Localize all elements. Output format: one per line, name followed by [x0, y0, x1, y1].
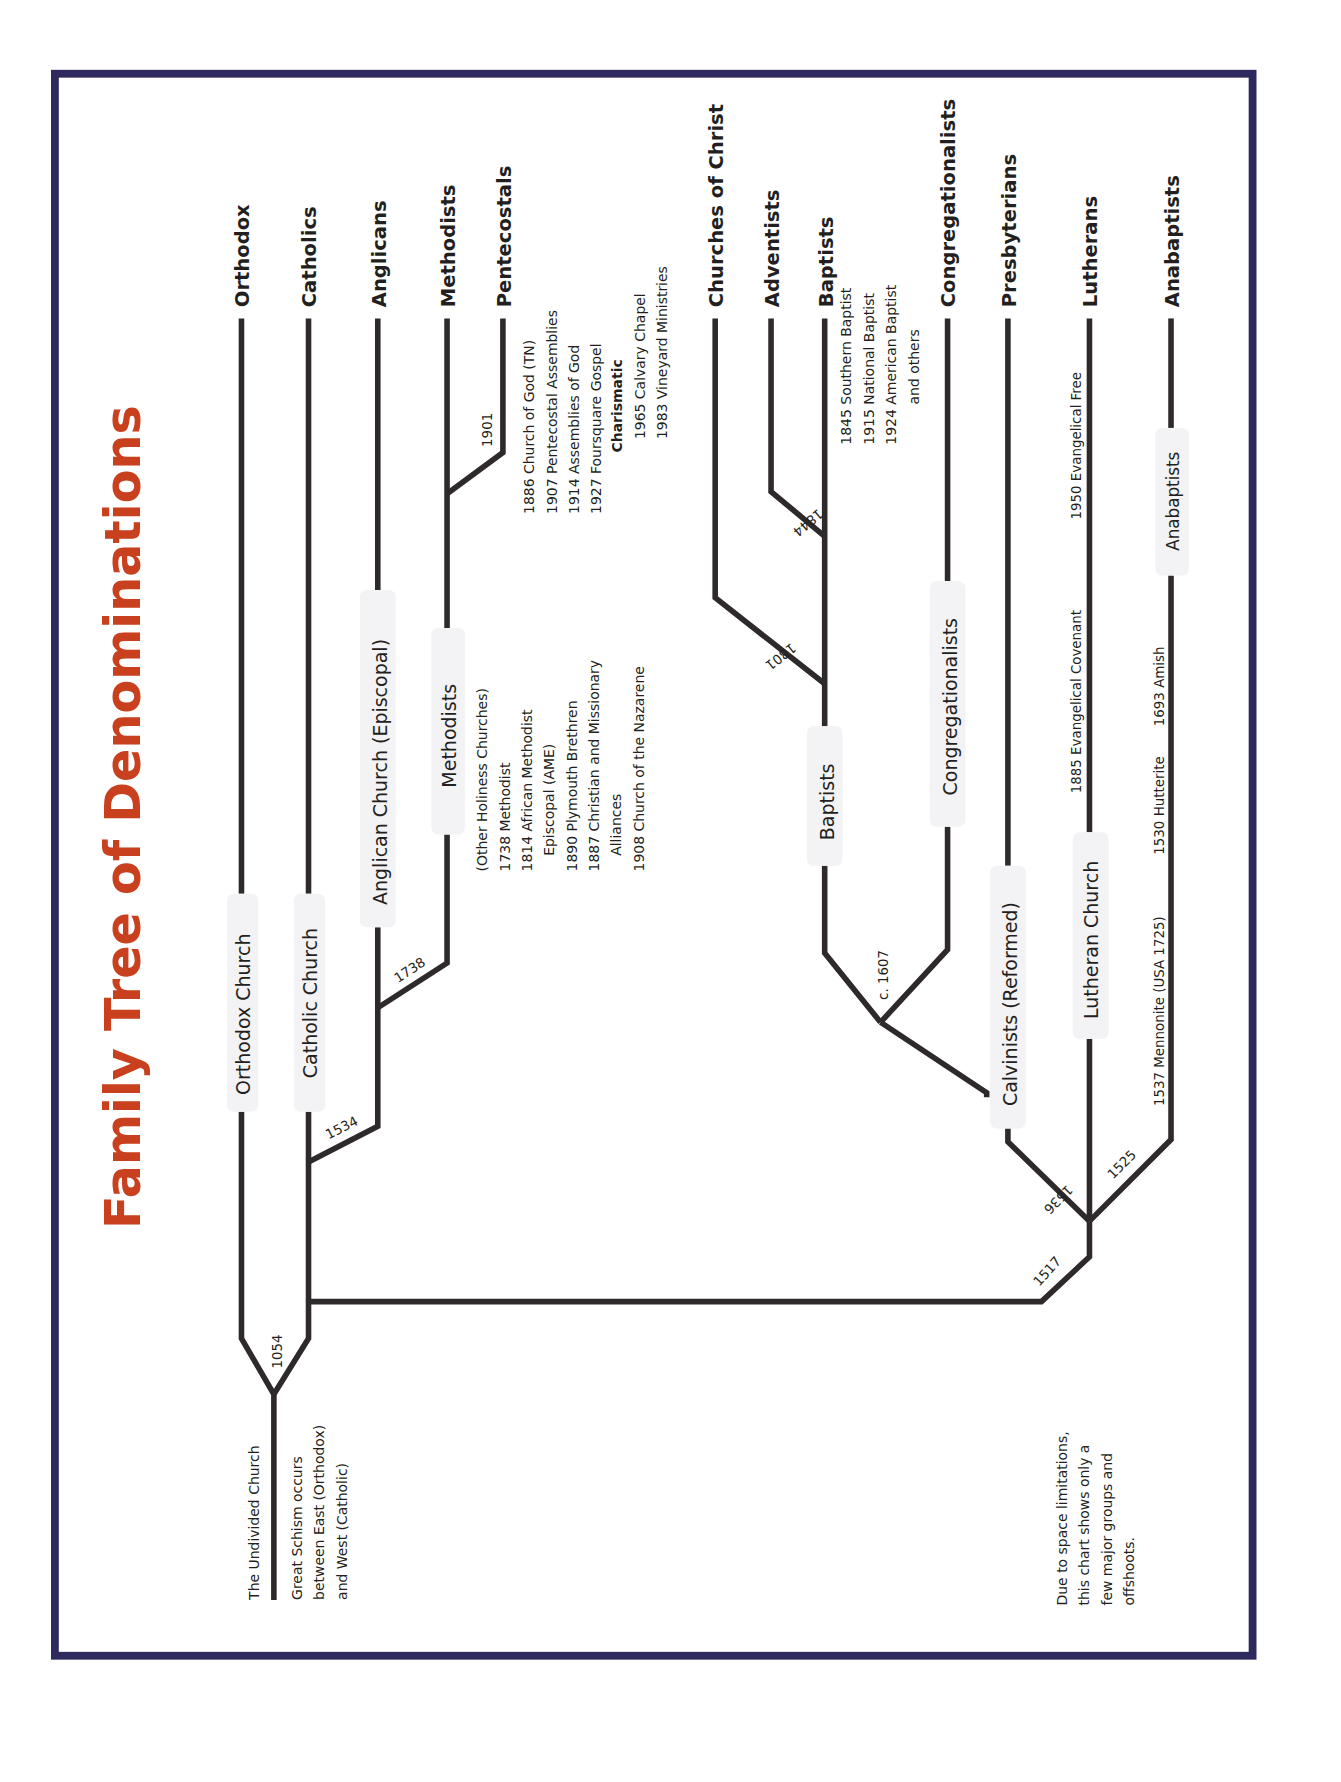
svg-text:few major groups and: few major groups and: [1099, 1453, 1115, 1606]
congregationalist-church-label: Congregationalists: [939, 618, 961, 795]
svg-text:1914 Assemblies of God: 1914 Assemblies of God: [566, 345, 582, 514]
orthodox-church-label: Orthodox Church: [232, 934, 254, 1095]
root-label: The Undivided Church: [246, 1445, 262, 1600]
year-baptist: c. 1607: [876, 950, 891, 1000]
congregationalist-end-label: Congregationalists: [937, 99, 960, 307]
page-title: Family Tree of Denominations: [94, 405, 152, 1229]
svg-text:offshoots.: offshoots.: [1121, 1537, 1137, 1606]
svg-text:between East (Orthodox): between East (Orthodox): [311, 1425, 327, 1600]
catholic-church-label: Catholic Church: [299, 928, 321, 1078]
svg-text:1887 Christian and Missionary: 1887 Christian and Missionary: [586, 660, 602, 872]
adventist-end-label: Adventists: [761, 190, 784, 308]
svg-text:Episcopal (AME): Episcopal (AME): [541, 744, 557, 856]
svg-text:1983 Vineyard Ministries: 1983 Vineyard Ministries: [654, 266, 670, 439]
svg-text:1738 Methodist: 1738 Methodist: [497, 762, 513, 871]
svg-text:1908 Church of the Nazarene: 1908 Church of the Nazarene: [631, 666, 647, 871]
anabaptist-church-label: Anabaptists: [1163, 452, 1183, 551]
svg-text:1886 Church of God (TN): 1886 Church of God (TN): [521, 340, 537, 514]
baptist-church-label: Baptists: [816, 764, 838, 841]
catholic-end-label: Catholics: [298, 206, 321, 307]
svg-text:1530 Hutterite: 1530 Hutterite: [1152, 756, 1167, 854]
year-schism: 1054: [270, 1335, 285, 1369]
svg-text:Great Schism occurs: Great Schism occurs: [289, 1456, 305, 1600]
orthodox-end-label: Orthodox: [231, 204, 254, 307]
svg-text:Alliances: Alliances: [608, 794, 624, 856]
calvinist-church-label: Calvinists (Reformed): [999, 902, 1021, 1106]
svg-text:1950 Evangelical Free: 1950 Evangelical Free: [1069, 372, 1084, 520]
methodist-end-label: Methodists: [437, 185, 460, 308]
svg-text:and West (Catholic): and West (Catholic): [334, 1463, 350, 1600]
lutheran-church-label: Lutheran Church: [1080, 861, 1102, 1019]
anglican-end-label: Anglicans: [368, 200, 391, 307]
svg-text:1845 Southern Baptist: 1845 Southern Baptist: [838, 287, 854, 444]
anglican-church-label: Anglican Church (Episcopal): [369, 639, 391, 905]
svg-text:1537 Mennonite (USA 1725): 1537 Mennonite (USA 1725): [1152, 916, 1167, 1106]
svg-text:and others: and others: [906, 329, 922, 404]
svg-text:(Other Holiness Churches): (Other Holiness Churches): [474, 688, 490, 871]
svg-text:1965 Calvary Chapel: 1965 Calvary Chapel: [632, 293, 648, 439]
svg-text:1890 Plymouth Brethren: 1890 Plymouth Brethren: [564, 700, 580, 871]
denomination-tree-diagram: Family Tree of Denominations: [0, 0, 1341, 1782]
svg-text:1907 Pentecostal Assemblies: 1907 Pentecostal Assemblies: [544, 310, 560, 514]
svg-text:this chart shows only a: this chart shows only a: [1076, 1445, 1092, 1606]
charismatic-heading: Charismatic: [609, 359, 625, 452]
baptist-end-label: Baptists: [815, 216, 838, 307]
lutheran-end-label: Lutherans: [1079, 196, 1102, 307]
methodist-church-label: Methodists: [438, 684, 460, 788]
pentecostal-end-label: Pentecostals: [493, 166, 516, 308]
svg-text:1915 National Baptist: 1915 National Baptist: [861, 293, 877, 445]
year-pentecostal: 1901: [480, 413, 495, 447]
svg-text:1924 American Baptist: 1924 American Baptist: [883, 284, 899, 444]
svg-text:1814 African Methodist: 1814 African Methodist: [519, 709, 535, 871]
svg-text:Due to space limitations,: Due to space limitations,: [1054, 1431, 1070, 1605]
churches-of-christ-end-label: Churches of Christ: [705, 104, 728, 307]
svg-text:1885 Evangelical Covenant: 1885 Evangelical Covenant: [1069, 610, 1084, 793]
anabaptist-end-label: Anabaptists: [1161, 175, 1184, 307]
svg-text:1693 Amish: 1693 Amish: [1152, 646, 1167, 726]
presbyterian-end-label: Presbyterians: [998, 154, 1021, 307]
svg-text:1927 Foursquare Gospel: 1927 Foursquare Gospel: [588, 343, 604, 514]
